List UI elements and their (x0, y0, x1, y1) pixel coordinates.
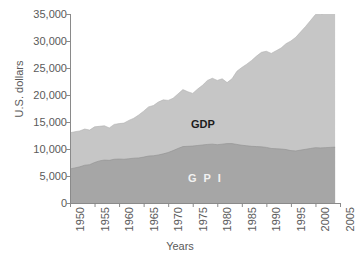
x-tick-label: 1970 (172, 207, 184, 231)
area-chart-svg (70, 14, 340, 203)
y-tick-label: 0 (61, 197, 67, 209)
x-axis-title: Years (0, 240, 360, 252)
chart-figure: U.S. dollars Years 05,00010,00015,00020,… (0, 0, 360, 260)
y-tick-label: 20,000 (33, 89, 67, 101)
y-tick-label: 5,000 (39, 170, 67, 182)
x-tick-label: 1980 (221, 207, 233, 231)
y-tick-label: 15,000 (33, 116, 67, 128)
y-tick-label: 25,000 (33, 62, 67, 74)
y-tick-label: 30,000 (33, 35, 67, 47)
x-tick-label: 1965 (148, 207, 160, 231)
x-tick-label: 2000 (319, 207, 331, 231)
y-tick-label: 10,000 (33, 143, 67, 155)
x-tick-label: 2005 (344, 207, 356, 231)
y-tick-label: 35,000 (33, 8, 67, 20)
x-tick-label: 1960 (123, 207, 135, 231)
y-axis-title: U.S. dollars (13, 34, 25, 144)
plot-area (70, 14, 340, 203)
x-tick-label: 1995 (295, 207, 307, 231)
x-tick-label: 1990 (270, 207, 282, 231)
x-tick-label: 1985 (246, 207, 258, 231)
x-tick-label: 1950 (74, 207, 86, 231)
x-tick-label: 1975 (197, 207, 209, 231)
x-tick-label: 1955 (99, 207, 111, 231)
